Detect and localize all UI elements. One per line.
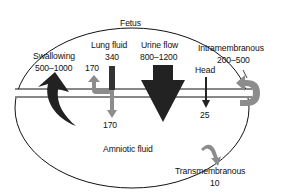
value-lung-fluid-return: 170 [85, 63, 99, 73]
label-transmembranous: Transmembranous [175, 166, 245, 176]
value-intramembranous: 200–500 [217, 55, 250, 65]
value-lung-fluid: 340 [105, 52, 119, 62]
head-arrow-shaft-icon [205, 77, 207, 101]
value-lung-fluid-amniotic: 170 [103, 120, 117, 130]
value-urine-flow: 800–1200 [140, 52, 177, 62]
label-intramembranous: Intramembranous [198, 43, 264, 53]
label-lung-fluid: Lung fluid [91, 40, 127, 50]
value-head: 25 [200, 110, 209, 120]
lung-fluid-bar-icon [109, 66, 115, 90]
label-swallowing: Swallowing [33, 51, 75, 61]
label-fetus: Fetus [120, 18, 141, 28]
label-urine-flow: Urine flow [141, 40, 178, 50]
transmembranous-arrow-icon [201, 145, 221, 166]
label-head: Head [195, 65, 215, 75]
value-swallowing: 500–1000 [35, 63, 72, 73]
head-arrow-tip-icon [202, 100, 210, 108]
value-transmembranous: 10 [210, 178, 219, 188]
label-amniotic-fluid: Amniotic fluid [103, 144, 153, 154]
swallowing-arrow-icon [38, 72, 76, 126]
